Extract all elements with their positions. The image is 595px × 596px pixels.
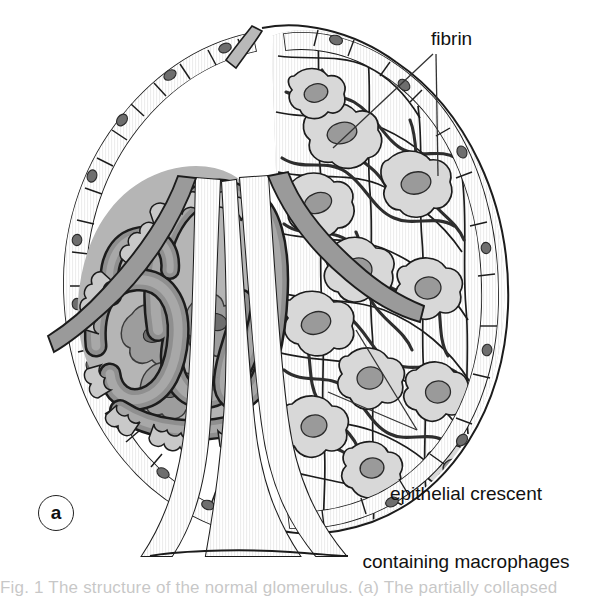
crescent-caption: epithelial crescent containing macrophag…	[346, 438, 586, 596]
panel-letter-a: a	[38, 495, 74, 531]
macrophage	[381, 151, 452, 217]
figure-caption-cropped: Fig. 1 The structure of the normal glome…	[0, 578, 595, 596]
crescent-caption-line-1: epithelial crescent	[346, 483, 586, 506]
crescent-caption-line-2: containing macrophages	[346, 551, 586, 574]
fibrin-label: fibrin	[431, 28, 472, 51]
